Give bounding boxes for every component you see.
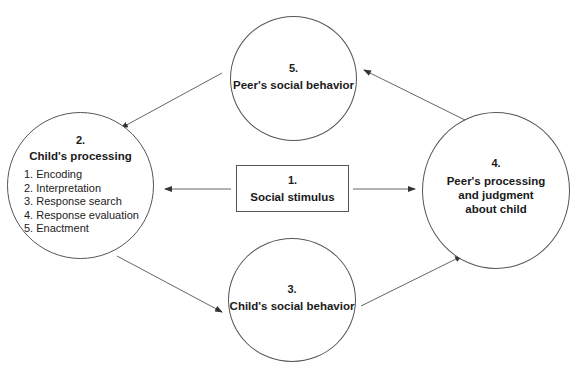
processing-steps-list: 1. Encoding 2. Interpretation 3. Respons… — [8, 168, 153, 236]
processing-step: 1. Encoding — [24, 168, 153, 182]
processing-step: 4. Response evaluation — [24, 209, 153, 223]
node-title: Child's processing — [8, 149, 153, 163]
node-number: 3. — [229, 283, 355, 295]
processing-step: 3. Response search — [24, 195, 153, 209]
node-social-stimulus: 1. Social stimulus — [236, 165, 349, 212]
processing-step: 5. Enactment — [24, 222, 153, 236]
node-title: Peer's social behavior — [231, 78, 356, 92]
node-title-line: about child — [423, 202, 569, 216]
node-title: Social stimulus — [237, 190, 348, 204]
arrow-child-processing-to-child-behavior — [117, 256, 222, 312]
processing-step: 2. Interpretation — [24, 182, 153, 196]
node-title: Child's social behavior — [229, 299, 355, 313]
node-child-processing: 2. Child's processing 1. Encoding 2. Int… — [7, 112, 154, 259]
node-title-line: and judgment — [423, 188, 569, 202]
node-number: 4. — [423, 157, 569, 169]
node-peer-social-behavior: 5. Peer's social behavior — [230, 16, 357, 141]
node-child-social-behavior: 3. Child's social behavior — [228, 238, 356, 362]
node-title-line: Peer's processing — [423, 174, 569, 188]
arrow-child-behavior-to-peer-processing — [361, 256, 462, 306]
node-number: 2. — [8, 134, 153, 146]
node-peer-processing-judgment: 4. Peer's processing and judgment about … — [422, 112, 570, 269]
node-number: 5. — [231, 62, 356, 74]
node-number: 1. — [237, 174, 348, 186]
